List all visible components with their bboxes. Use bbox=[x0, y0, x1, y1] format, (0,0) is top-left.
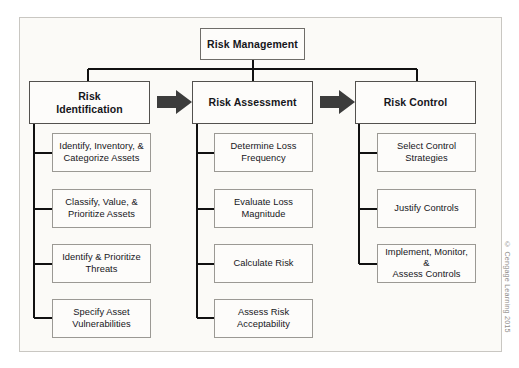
risk-management-figure: Risk Management Risk Identification Iden… bbox=[0, 0, 519, 368]
leaf-label: Classify, Value, & Prioritize Assets bbox=[61, 197, 141, 220]
node-risk-identification[interactable]: Risk Identification bbox=[29, 81, 150, 124]
node-risk-management[interactable]: Risk Management bbox=[200, 28, 305, 60]
node-implement-monitor-assess-controls[interactable]: Implement, Monitor, & Assess Controls bbox=[377, 244, 476, 283]
leaf-line-2: Assess Controls bbox=[393, 269, 461, 279]
leaf-line-2: Magnitude bbox=[242, 209, 286, 219]
leaf-line-2: Vulnerabilities bbox=[72, 319, 130, 329]
node-identify-prioritize-threats[interactable]: Identify & Prioritize Threats bbox=[52, 244, 151, 283]
leaf-line-2: Threats bbox=[86, 264, 118, 274]
leaf-label: Specify Asset Vulnerabilities bbox=[68, 307, 134, 330]
node-risk-control-label: Risk Control bbox=[380, 96, 452, 109]
node-select-control-strategies[interactable]: Select Control Strategies bbox=[377, 133, 476, 172]
leaf-label: Identify & Prioritize Threats bbox=[58, 252, 145, 275]
node-risk-identification-label: Risk Identification bbox=[52, 90, 127, 116]
node-identify-inventory-categorize-assets[interactable]: Identify, Inventory, & Categorize Assets bbox=[52, 133, 151, 172]
node-assess-risk-acceptability[interactable]: Assess Risk Acceptability bbox=[214, 299, 313, 338]
leaf-line-1: Identify & Prioritize bbox=[62, 252, 141, 262]
leaf-line-1: Identify, Inventory, & bbox=[59, 141, 143, 151]
header-line-1: Risk bbox=[78, 90, 101, 102]
node-classify-value-prioritize-assets[interactable]: Classify, Value, & Prioritize Assets bbox=[52, 189, 151, 228]
node-risk-control[interactable]: Risk Control bbox=[355, 81, 476, 124]
node-calculate-risk[interactable]: Calculate Risk bbox=[214, 244, 313, 283]
leaf-line-2: Categorize Assets bbox=[64, 153, 140, 163]
leaf-line-1: Specify Asset bbox=[73, 307, 129, 317]
leaf-label: Determine Loss Frequency bbox=[227, 141, 301, 164]
leaf-line-1: Classify, Value, & bbox=[65, 197, 137, 207]
node-determine-loss-frequency[interactable]: Determine Loss Frequency bbox=[214, 133, 313, 172]
header-line-2: Identification bbox=[56, 103, 123, 115]
leaf-line-1: Determine Loss bbox=[231, 141, 297, 151]
node-risk-assessment-label: Risk Assessment bbox=[204, 96, 300, 109]
node-evaluate-loss-magnitude[interactable]: Evaluate Loss Magnitude bbox=[214, 189, 313, 228]
leaf-label: Justify Controls bbox=[390, 203, 462, 214]
node-risk-management-label: Risk Management bbox=[203, 38, 302, 51]
leaf-label: Select Control Strategies bbox=[393, 141, 460, 164]
leaf-line-2: Acceptability bbox=[237, 319, 290, 329]
copyright-credit: © Cengage Learning 2015 bbox=[503, 240, 517, 358]
leaf-line-1: Evaluate Loss bbox=[234, 197, 293, 207]
leaf-line-2: Strategies bbox=[405, 153, 447, 163]
leaf-line-1: Implement, Monitor, & bbox=[385, 247, 468, 268]
leaf-line-1: Assess Risk bbox=[238, 307, 289, 317]
node-specify-asset-vulnerabilities[interactable]: Specify Asset Vulnerabilities bbox=[52, 299, 151, 338]
node-justify-controls[interactable]: Justify Controls bbox=[377, 189, 476, 228]
leaf-line-2: Frequency bbox=[241, 153, 285, 163]
leaf-label: Implement, Monitor, & Assess Controls bbox=[378, 247, 475, 281]
leaf-label: Assess Risk Acceptability bbox=[233, 307, 294, 330]
leaf-line-2: Prioritize Assets bbox=[68, 209, 135, 219]
leaf-label: Calculate Risk bbox=[229, 258, 297, 269]
leaf-line-1: Select Control bbox=[397, 141, 456, 151]
leaf-label: Identify, Inventory, & Categorize Assets bbox=[55, 141, 147, 164]
node-risk-assessment[interactable]: Risk Assessment bbox=[192, 81, 313, 124]
leaf-label: Evaluate Loss Magnitude bbox=[230, 197, 297, 220]
